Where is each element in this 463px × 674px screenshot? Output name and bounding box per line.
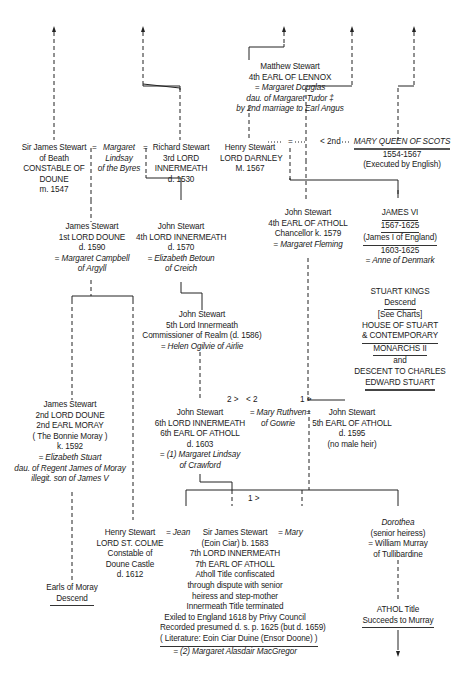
- person-date: d. 1590: [48, 243, 136, 254]
- person-title: DOUNE: [10, 175, 98, 186]
- person-name: John Stewart: [140, 310, 264, 321]
- person-note: (Executed by English): [350, 160, 454, 171]
- reference-text: [See Charts]: [352, 310, 448, 321]
- person-name: MARY QUEEN OF SCOTS: [354, 137, 451, 150]
- person-detail: (Eoin Ciar) b. 1583: [160, 539, 310, 550]
- second-marriage-marker: < 2nd: [320, 137, 341, 147]
- person-date: m. 1547: [10, 185, 98, 196]
- person-title: CONSTABLE OF: [10, 164, 98, 175]
- node-earls-of-moray-descend: Earls of Moray Descend: [30, 583, 114, 606]
- person-detail: (senior heiress): [350, 529, 446, 540]
- person-title: 1st LORD DOUNE: [48, 233, 136, 244]
- person-title: 5th EARL OF ATHOLL: [310, 419, 394, 430]
- reign-dates: 1567-1625: [381, 221, 419, 234]
- person-date: d. 1612: [96, 570, 164, 581]
- spouse: = (1) Margaret Lindsay: [150, 450, 250, 461]
- person-nickname: ( The Bonnie Moray ): [4, 432, 136, 443]
- spouse-detail: of Tullibardine: [350, 550, 446, 561]
- descent-label: Descend: [384, 298, 416, 311]
- spouse: = Helen Ogilvie of Airlie: [140, 342, 264, 353]
- person-note: Innermeath Title terminated: [160, 602, 310, 613]
- person-name: Henry Stewart: [220, 143, 280, 154]
- person-title: 6th LORD INNERMEATH: [150, 419, 250, 430]
- reference-text: and: [352, 356, 448, 367]
- spouse: = Elizabeth Stuart: [4, 453, 136, 464]
- spouse: = Margaret Douglas: [205, 83, 375, 94]
- node-mary: = Mary: [278, 528, 308, 539]
- reference-text: MONARCHS II: [373, 344, 427, 357]
- node-mary-queen-of-scots: MARY QUEEN OF SCOTS 1554-1567 (Executed …: [350, 137, 454, 171]
- spouse-note: by 2nd marriage to Earl Angus: [205, 104, 375, 115]
- node-sir-james-7th-lord-innermeath: Sir James Stewart (Eoin Ciar) b. 1583 7t…: [160, 528, 310, 657]
- person-title: 3rd LORD: [150, 154, 212, 165]
- node-mary-ruthven: = Mary Ruthven of Gowrie: [247, 408, 309, 429]
- person-name: = Mary Ruthven: [247, 408, 309, 419]
- person-title: LORD ST. COLME: [96, 539, 164, 550]
- node-john-6th-lord-innermeath: John Stewart 6th LORD INNERMEATH 6th EAR…: [150, 408, 250, 472]
- person-name: Margaret: [97, 143, 141, 154]
- person-title: 5th Lord Innermeath: [140, 321, 264, 332]
- spouse-detail: of Creich: [136, 264, 226, 275]
- person-title: 4th EARL OF LENNOX: [205, 73, 375, 84]
- spouse-detail: of Crawford: [150, 461, 250, 472]
- person-detail: Doune Castle: [96, 560, 164, 571]
- descent-label: ATHOL Title: [350, 605, 446, 616]
- person-name: John Stewart: [260, 208, 356, 219]
- node-henry-lord-st-colme: Henry Stewart LORD ST. COLME Constable o…: [96, 528, 164, 581]
- spouse: = William Murray: [350, 539, 446, 550]
- person-name: Sir James Stewart: [10, 143, 98, 154]
- person-date: d. 1603: [150, 440, 250, 451]
- descent-label: STUART KINGS: [360, 287, 440, 298]
- marriage-order-marker: 1 >: [248, 494, 260, 504]
- spouse-detail: illegit. son of James V: [4, 474, 136, 485]
- person-note: Recorded presumed d. s. p. 1625 (but d. …: [160, 623, 310, 634]
- person-title: 4th EARL OF ATHOLL: [260, 219, 356, 230]
- spouse: = Margaret Fleming: [260, 240, 356, 251]
- spouse: = Margaret Campbell: [48, 254, 136, 265]
- person-note: (no male heir): [310, 440, 394, 451]
- node-james-stewart-of-beath: Sir James Stewart of Beath CONSTABLE OF …: [10, 143, 98, 196]
- node-john-5th-earl-of-atholl: John Stewart 5th EARL OF ATHOLL d. 1595 …: [310, 408, 394, 450]
- person-name: Matthew Stewart: [205, 62, 375, 73]
- node-stuart-kings-descend: STUART KINGS Descend: [360, 287, 440, 310]
- reign-dates: 1554-1567: [350, 150, 454, 161]
- spouse: = (2) Margaret Alasdair MacGregor: [160, 647, 310, 658]
- reference-text: DESCENT TO CHARLES: [352, 367, 448, 378]
- node-dorothea: Dorothea (senior heiress) = William Murr…: [350, 518, 446, 560]
- node-athol-title-succeeds: ATHOL Title Succeeds to Murray: [350, 605, 446, 628]
- person-detail: Constable of: [96, 549, 164, 560]
- person-name: John Stewart: [310, 408, 394, 419]
- node-john-4th-earl-of-atholl: John Stewart 4th EARL OF ATHOLL Chancell…: [260, 208, 356, 250]
- person-name: Lindsay: [97, 154, 141, 165]
- descent-label: Descend: [50, 594, 94, 607]
- person-name: Henry Stewart: [96, 528, 164, 539]
- descent-label: Earls of Moray: [30, 583, 114, 594]
- person-detail: of the Byres: [97, 164, 141, 175]
- person-detail: of Gowrie: [247, 419, 309, 430]
- spouse-note: dau. of Margaret Tudor ‡: [205, 94, 375, 105]
- reference-text: & CONTEMPORARY: [362, 331, 438, 344]
- node-margaret-lindsay-byres: Margaret Lindsay of the Byres: [97, 143, 141, 175]
- person-name: Richard Stewart: [150, 143, 212, 154]
- spouse-detail: dau. of Regent James of Moray: [4, 464, 136, 475]
- spouse-detail: of Argyll: [48, 264, 136, 275]
- node-john-5th-lord-innermeath: John Stewart 5th Lord Innermeath Commiss…: [140, 310, 264, 352]
- marriage-order-marker: < 2: [246, 395, 258, 405]
- person-title: 4th LORD INNERMEATH: [136, 233, 226, 244]
- node-john-4th-lord-innermeath: John Stewart 4th LORD INNERMEATH d. 1570…: [136, 222, 226, 275]
- person-name: JAMES VI: [382, 208, 419, 221]
- person-name: James Stewart: [48, 222, 136, 233]
- node-richard-stewart: Richard Stewart 3rd LORD INNERMEATH d. 1…: [150, 143, 212, 185]
- person-name: John Stewart: [150, 408, 250, 419]
- spouse: = Anne of Denmark: [360, 256, 440, 267]
- person-date: d. 1530: [150, 175, 212, 186]
- node-see-charts-reference: [See Charts] HOUSE OF STUART & CONTEMPOR…: [352, 310, 448, 391]
- person-title: 6th EARL OF ATHOLL: [150, 429, 250, 440]
- person-name: Dorothea: [350, 518, 446, 529]
- person-note: Atholl Title confiscated: [160, 570, 310, 581]
- node-lord-darnley: Henry Stewart LORD DARNLEY M. 1567: [220, 143, 280, 175]
- person-date: d. 1570: [136, 243, 226, 254]
- person-title: 7th LORD INNERMEATH: [160, 549, 310, 560]
- node-james-1st-lord-doune: James Stewart 1st LORD DOUNE d. 1590 = M…: [48, 222, 136, 275]
- person-detail: Commissioner of Realm (d. 1586): [140, 331, 264, 342]
